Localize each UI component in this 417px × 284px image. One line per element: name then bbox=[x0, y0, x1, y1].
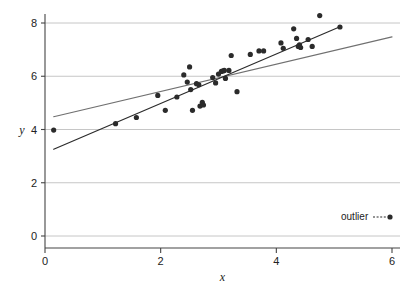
data-point bbox=[298, 45, 303, 50]
data-point bbox=[229, 53, 234, 58]
data-point bbox=[256, 48, 261, 53]
data-point bbox=[222, 68, 227, 73]
data-point bbox=[294, 36, 299, 41]
data-point bbox=[163, 108, 168, 113]
data-point bbox=[201, 102, 206, 107]
data-point bbox=[185, 80, 190, 85]
y-tick-label-0: 0 bbox=[31, 230, 37, 242]
data-point bbox=[174, 94, 179, 99]
data-point bbox=[187, 64, 192, 69]
data-point bbox=[306, 37, 311, 42]
x-tick-label-0: 0 bbox=[42, 255, 48, 267]
data-point bbox=[113, 121, 118, 126]
data-point bbox=[181, 72, 186, 77]
x-tick-label-2: 2 bbox=[158, 255, 164, 267]
y-tick-label-6: 6 bbox=[31, 70, 37, 82]
y-axis-label: y bbox=[18, 123, 25, 137]
y-tick-label-4: 4 bbox=[31, 124, 37, 136]
y-tick-label-2: 2 bbox=[31, 177, 37, 189]
data-point bbox=[278, 40, 283, 45]
data-point bbox=[188, 87, 193, 92]
data-point bbox=[248, 52, 253, 57]
data-point bbox=[134, 115, 139, 120]
data-point bbox=[223, 76, 228, 81]
data-point bbox=[155, 93, 160, 98]
data-point bbox=[234, 89, 239, 94]
data-point bbox=[337, 24, 342, 29]
data-point bbox=[213, 80, 218, 85]
data-point bbox=[310, 44, 315, 49]
x-axis-label: x bbox=[219, 270, 226, 284]
legend-label-outlier: outlier bbox=[341, 211, 369, 222]
legend-marker-outlier bbox=[387, 214, 392, 219]
data-point bbox=[190, 108, 195, 113]
data-point bbox=[261, 48, 266, 53]
x-tick-label-6: 6 bbox=[389, 255, 395, 267]
data-point bbox=[196, 82, 201, 87]
data-point bbox=[210, 75, 215, 80]
plot-canvas: 024680246yxoutlier bbox=[0, 0, 417, 284]
y-tick-label-8: 8 bbox=[31, 17, 37, 29]
data-point bbox=[51, 127, 56, 132]
data-point bbox=[291, 26, 296, 31]
data-point bbox=[226, 68, 231, 73]
data-point bbox=[281, 46, 286, 51]
x-tick-label-4: 4 bbox=[273, 255, 279, 267]
data-point bbox=[317, 13, 322, 18]
scatter-plot-figure: 024680246yxoutlier bbox=[0, 0, 417, 284]
